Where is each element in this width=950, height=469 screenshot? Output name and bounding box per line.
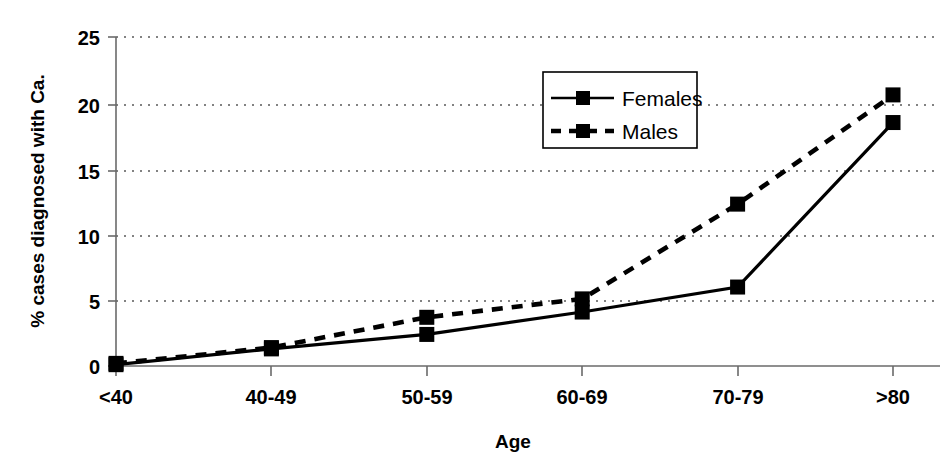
x-axis-title: Age [495, 431, 531, 452]
x-tick-label-4: 70-79 [712, 386, 763, 408]
x-tick-label-1: 40-49 [245, 386, 296, 408]
chart-canvas: 25 20 15 10 5 0 % cases diagnosed with C… [0, 0, 950, 469]
y-tick-label-20: 20 [78, 95, 100, 117]
legend-swatch-marker-females [576, 91, 590, 105]
y-tick-label-25: 25 [78, 27, 100, 49]
series-line-females [116, 123, 893, 365]
data-point-females-50-59[interactable] [419, 327, 434, 342]
y-axis-title: % cases diagnosed with Ca. [27, 74, 48, 327]
y-tick-labels: 25 20 15 10 5 0 [78, 27, 100, 378]
x-tick-labels: <40 40-49 50-59 60-69 70-79 >80 [99, 386, 910, 408]
legend-swatch-marker-males [576, 124, 590, 138]
legend: Females Males [543, 72, 703, 148]
y-tick-label-10: 10 [78, 226, 100, 248]
y-tick-label-0: 0 [89, 356, 100, 378]
data-point-females-70-79[interactable] [730, 280, 745, 295]
data-point-females-60-69[interactable] [575, 305, 590, 320]
data-point-males-60-69[interactable] [575, 291, 590, 306]
line-chart-figure: 25 20 15 10 5 0 % cases diagnosed with C… [0, 0, 950, 469]
data-point-males-70-79[interactable] [730, 197, 745, 212]
x-tick-label-3: 60-69 [556, 386, 607, 408]
x-tick-label-5: >80 [876, 386, 910, 408]
series-females [109, 115, 901, 372]
legend-label-females: Females [622, 87, 703, 110]
data-point-males-40-49[interactable] [264, 340, 279, 355]
data-series-layer [109, 87, 901, 372]
data-point-females->80[interactable] [886, 115, 901, 130]
y-tick-marks [108, 37, 116, 366]
gridlines [116, 37, 940, 301]
data-point-males->80[interactable] [886, 87, 901, 102]
legend-label-males: Males [622, 120, 678, 143]
data-point-males-50-59[interactable] [419, 310, 434, 325]
data-point-males-<40[interactable] [109, 356, 124, 371]
series-males [109, 87, 901, 370]
x-tick-marks [116, 366, 893, 376]
x-tick-label-2: 50-59 [401, 386, 452, 408]
y-tick-label-5: 5 [89, 291, 100, 313]
x-tick-label-0: <40 [99, 386, 133, 408]
y-tick-label-15: 15 [78, 161, 100, 183]
